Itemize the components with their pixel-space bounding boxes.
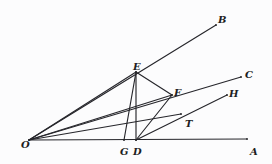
label-t: T [185, 119, 192, 129]
label-f: F [174, 88, 181, 98]
point-c [240, 76, 242, 78]
label-a: A [250, 147, 258, 157]
segment-e-g [124, 72, 136, 140]
segment-o-e [29, 72, 136, 140]
label-g: G [120, 147, 129, 157]
segment-e-f [136, 72, 172, 95]
point-f [171, 94, 173, 96]
label-e: E [133, 62, 141, 72]
label-h: H [229, 89, 238, 99]
points-group [28, 24, 248, 141]
point-g [123, 139, 125, 141]
label-c: C [245, 70, 253, 80]
label-d: D [133, 147, 142, 157]
point-a [246, 138, 248, 140]
segments-group [29, 25, 247, 140]
point-d [135, 139, 137, 141]
figure-canvas [0, 0, 272, 164]
point-b [215, 24, 217, 26]
point-t [180, 113, 182, 115]
segment-d-f [136, 95, 172, 140]
point-h [226, 94, 228, 96]
label-o: O [21, 140, 30, 150]
label-b: B [218, 15, 226, 25]
geometry-figure: OABCDEFGHT [0, 0, 272, 164]
